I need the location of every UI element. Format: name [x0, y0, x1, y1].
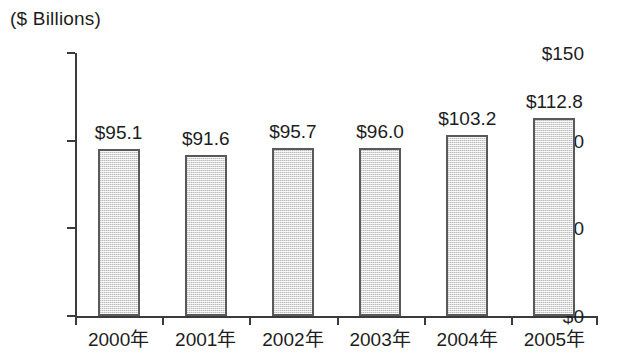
- x-axis-tick: [75, 318, 77, 325]
- bar-value-label: $95.7: [269, 122, 317, 141]
- plot-area: $0$50$100$150 $95.1$91.6$95.7$96.0$103.2…: [75, 53, 598, 318]
- x-axis-category-label: 2003年: [349, 329, 410, 350]
- x-axis-category-label: 2004年: [437, 329, 498, 350]
- chart-page: ($ Billions) $0$50$100$150 $95.1$91.6$95…: [0, 0, 624, 355]
- y-axis-tick: [67, 315, 75, 317]
- x-axis-category-label: 2002年: [262, 329, 323, 350]
- y-axis-tick: [67, 227, 75, 229]
- x-axis-tick: [511, 318, 513, 325]
- y-axis-tick: [67, 140, 75, 142]
- x-axis-tick: [424, 318, 426, 325]
- x-axis-category-label: 2000年: [88, 329, 149, 350]
- bar[interactable]: [446, 135, 488, 316]
- y-axis-line: [75, 53, 77, 318]
- x-axis-tick: [596, 318, 598, 325]
- bar-value-label: $103.2: [438, 109, 496, 128]
- x-axis-category-label: 2001年: [175, 329, 236, 350]
- x-axis-tick: [249, 318, 251, 325]
- x-axis-tick: [337, 318, 339, 325]
- y-axis-tick-label: $150: [542, 44, 584, 63]
- bar[interactable]: [185, 155, 227, 316]
- bar-value-label: $112.8: [526, 92, 583, 111]
- bar-value-label: $96.0: [356, 122, 404, 141]
- bar-value-label: $91.6: [182, 129, 230, 148]
- x-axis-category-label: 2005年: [524, 329, 585, 350]
- x-axis-tick: [162, 318, 164, 325]
- bar[interactable]: [272, 148, 314, 316]
- bar[interactable]: [98, 149, 140, 316]
- axis-unit-caption: ($ Billions): [10, 8, 101, 30]
- bar[interactable]: [359, 148, 401, 316]
- bar[interactable]: [533, 118, 575, 316]
- bar-value-label: $95.1: [95, 123, 143, 142]
- y-axis-tick: [67, 52, 75, 54]
